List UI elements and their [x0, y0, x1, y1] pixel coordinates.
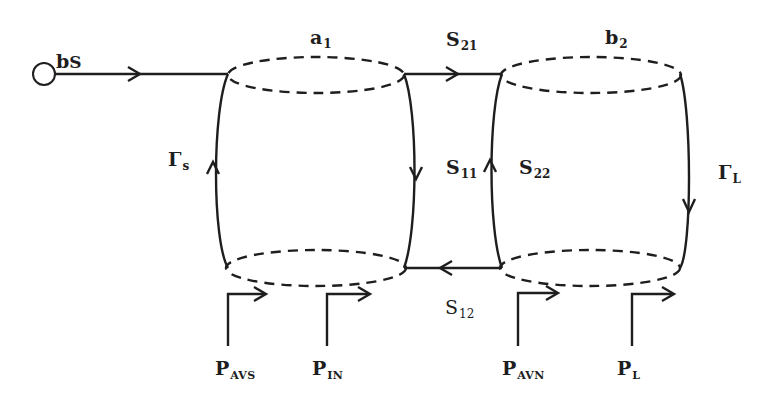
label-main: b [605, 26, 618, 48]
label-s21: S21 [446, 30, 477, 49]
label-main: Γ [168, 148, 182, 170]
label-sub: 2 [619, 37, 627, 51]
label-p-in: PIN [312, 359, 343, 378]
label-gamma-l: ΓL [718, 163, 741, 182]
label-bs: bS [56, 52, 82, 71]
label-main: Γ [718, 161, 732, 183]
arrow-up-icon [484, 160, 496, 172]
label-s22: S22 [519, 158, 550, 177]
label-p-l: PL [617, 359, 640, 378]
label-main: P [502, 357, 516, 379]
label-sub: AVN [517, 369, 544, 382]
label-p-avn: PAVN [502, 359, 545, 378]
p-avs-arrow [228, 294, 264, 346]
node-b1-ellipse [226, 250, 406, 286]
p-l-arrow [632, 294, 672, 346]
node-a1-ellipse [228, 57, 404, 93]
label-s12: S12 [445, 298, 474, 317]
label-gamma-s: Γs [168, 150, 189, 169]
source-node-icon [33, 63, 55, 85]
label-main: S [445, 296, 458, 318]
label-main: b [56, 50, 69, 72]
node-a2-ellipse [500, 250, 680, 286]
label-sub: L [632, 369, 640, 382]
signal-flow-diagram: bS a1 S21 b2 Γs S11 S22 ΓL S12 PAVS PIN … [0, 0, 762, 405]
label-sub: 22 [534, 167, 551, 181]
p-avn-arrow [518, 293, 556, 346]
arrow-down-icon [410, 167, 422, 179]
label-main: S [519, 156, 533, 178]
label-main: S [446, 28, 460, 50]
p-in-arrow [327, 294, 368, 346]
label-a1: a1 [310, 28, 332, 47]
gamma-l-branch [680, 74, 689, 268]
label-sub: 21 [461, 39, 478, 53]
label-b2: b2 [605, 28, 628, 47]
label-sub: 1 [323, 37, 331, 51]
label-main: S [446, 156, 460, 178]
label-sub: s [183, 159, 190, 173]
label-p-avs: PAVS [215, 359, 255, 378]
label-main: P [215, 357, 229, 379]
label-main: a [310, 26, 322, 48]
node-b2-ellipse [501, 57, 681, 93]
label-sub: L [733, 172, 741, 186]
diagram-graphics [0, 0, 762, 405]
label-sub: 12 [459, 307, 474, 321]
label-sub: IN [327, 369, 343, 382]
label-main: P [312, 357, 326, 379]
label-s11: S11 [446, 158, 477, 177]
label-main: P [617, 357, 631, 379]
label-sub: AVS [230, 369, 255, 382]
label-sub: S [69, 52, 81, 72]
label-sub: 11 [461, 167, 478, 181]
